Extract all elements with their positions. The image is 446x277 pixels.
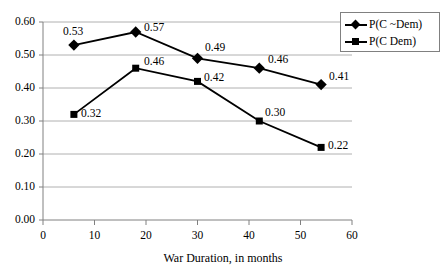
data-label-series2-3: 0.30 — [265, 107, 285, 119]
x-tick-label-10: 10 — [89, 230, 101, 242]
data-point-marker — [318, 144, 325, 151]
x-tick-label-30: 30 — [192, 230, 204, 242]
y-tick-label-0.10: 0.10 — [2, 181, 35, 193]
series-p-c-dem — [70, 65, 324, 151]
y-tick-label-0.20: 0.20 — [2, 148, 35, 160]
diamond-marker-icon — [345, 19, 367, 30]
y-tick-label-0.30: 0.30 — [2, 115, 35, 127]
data-point-marker — [130, 26, 141, 37]
data-point-marker — [315, 79, 326, 90]
y-axis-ticks — [39, 22, 43, 220]
data-label-series1-3: 0.46 — [268, 54, 288, 66]
y-tick-label-0.60: 0.60 — [2, 16, 35, 28]
legend-item-p-c-not-dem[interactable]: P(C ~Dem) — [345, 16, 435, 33]
data-label-series2-1: 0.46 — [144, 56, 164, 68]
x-tick-label-40: 40 — [243, 230, 255, 242]
legend-item-p-c-dem[interactable]: P(C Dem) — [345, 33, 435, 50]
data-point-marker — [70, 111, 77, 118]
data-point-marker — [254, 63, 265, 74]
data-point-marker — [192, 53, 203, 64]
x-axis-ticks — [43, 220, 352, 225]
data-label-series1-1: 0.57 — [144, 22, 164, 34]
x-tick-label-0: 0 — [40, 230, 46, 242]
line-chart: 0.60 0.50 0.40 0.30 0.20 0.10 0.00 0 10 … — [0, 0, 446, 277]
y-tick-label-0.00: 0.00 — [2, 214, 35, 226]
x-axis-title: War Duration, in months — [0, 252, 446, 264]
square-marker-icon — [345, 36, 367, 47]
x-tick-label-50: 50 — [295, 230, 307, 242]
data-label-series1-4: 0.41 — [329, 71, 349, 83]
x-tick-label-20: 20 — [140, 230, 152, 242]
x-tick-label-60: 60 — [346, 230, 358, 242]
data-point-marker — [194, 78, 201, 85]
y-tick-label-0.40: 0.40 — [2, 82, 35, 94]
y-tick-label-0.50: 0.50 — [2, 49, 35, 61]
data-label-series2-0: 0.32 — [81, 108, 101, 120]
data-label-series2-4: 0.22 — [328, 140, 348, 152]
data-point-marker — [68, 39, 79, 50]
data-point-marker — [256, 118, 263, 125]
data-label-series2-2: 0.42 — [204, 72, 224, 84]
legend: P(C ~Dem) P(C Dem) — [340, 12, 440, 52]
legend-label-p-c-dem: P(C Dem) — [369, 36, 416, 48]
data-label-series1-0: 0.53 — [63, 26, 83, 38]
gridlines — [43, 22, 352, 187]
data-point-marker — [132, 65, 139, 72]
legend-label-p-c-not-dem: P(C ~Dem) — [369, 19, 422, 31]
data-label-series1-2: 0.49 — [205, 42, 225, 54]
